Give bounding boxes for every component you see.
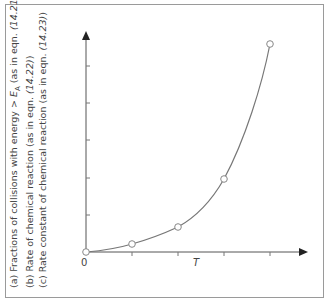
origin-label: 0 (81, 257, 87, 268)
data-point (267, 41, 274, 48)
x-ticks (132, 252, 270, 256)
data-point (83, 249, 90, 256)
data-point (129, 241, 136, 248)
x-axis-label: T (193, 257, 199, 268)
y-label-line-b: (b) Rate of chemical reaction (as in eqn… (24, 8, 37, 288)
data-point (175, 224, 182, 231)
y-ticks (86, 66, 90, 215)
y-axis-arrow-icon (82, 31, 90, 40)
y-axis-label: (a) Fractions of collisions with energy … (8, 8, 49, 288)
data-markers (83, 41, 274, 256)
y-label-line-a: (a) Fractions of collisions with energy … (8, 8, 24, 288)
growth-curve (86, 44, 270, 252)
x-axis-arrow-icon (299, 248, 308, 256)
data-point (221, 176, 228, 183)
y-label-line-c: (c) Rate constant of chemical reaction (… (37, 8, 50, 288)
